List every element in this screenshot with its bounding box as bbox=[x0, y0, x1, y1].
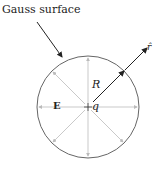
unit-vector-label: r̂ bbox=[147, 42, 151, 52]
charge-label: q bbox=[92, 100, 99, 113]
charge-plus-icon bbox=[84, 103, 92, 111]
diagram-graphics bbox=[0, 0, 161, 170]
field-label: E bbox=[53, 100, 61, 111]
gauss-diagram: Gauss surface R E q r̂ bbox=[0, 0, 161, 170]
unit-vector-arrow bbox=[125, 48, 147, 70]
radius-label: R bbox=[92, 78, 100, 91]
gauss-surface-label: Gauss surface bbox=[2, 3, 81, 16]
title-pointer-arrow bbox=[37, 22, 62, 57]
